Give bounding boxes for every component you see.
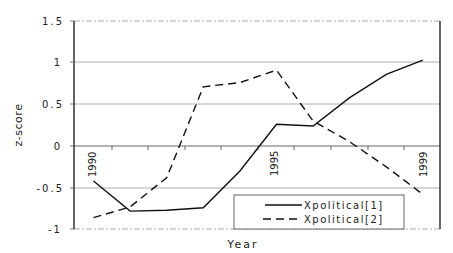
legend: Xpolitical[1] Xpolitical[2] (234, 195, 404, 229)
y-axis-title: z-score (12, 104, 25, 147)
y-tick-label: 0 (54, 141, 62, 152)
legend-label-1: Xpolitical[1] (304, 200, 384, 211)
x-tick-label-1990: 1990 (87, 152, 98, 177)
x-tick-label-1999: 1999 (418, 152, 429, 177)
line-chart: 1.5 1 0.5 0 -0.5 -1 z-score 1990 1995 19… (0, 0, 453, 253)
x-tick-label-1995: 1995 (269, 151, 280, 176)
legend-label-2: Xpolitical[2] (304, 214, 384, 225)
y-tick-label: 1 (54, 57, 62, 68)
y-tick-label: 0.5 (42, 99, 64, 110)
x-axis-title: Year (226, 238, 258, 251)
y-tick-label: -1 (48, 224, 62, 235)
y-tick-label: -0.5 (36, 183, 64, 194)
y-tick-label: 1.5 (42, 16, 64, 27)
